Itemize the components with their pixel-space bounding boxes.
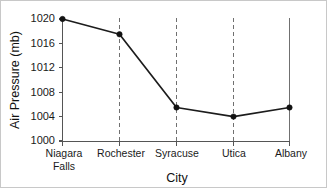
y-tick-label-1020: 1020 xyxy=(31,12,55,24)
line-chart: 1020 1016 1012 1008 1004 1000 xyxy=(1,1,326,187)
y-tick-label-1004: 1004 xyxy=(31,110,55,122)
data-point-albany xyxy=(287,105,292,110)
data-point-utica xyxy=(231,114,236,119)
chart-screenshot: 1020 1016 1012 1008 1004 1000 xyxy=(0,0,327,188)
x-tick-label-syracuse: Syracuse xyxy=(155,147,199,159)
chart-svg: 1020 1016 1012 1008 1004 1000 xyxy=(1,1,326,187)
data-point-rochester xyxy=(117,32,122,37)
category-grid-lines xyxy=(120,18,290,141)
y-tick-label-1012: 1012 xyxy=(31,61,55,73)
data-point-niagara-falls xyxy=(60,16,65,21)
y-axis-title: Air Pressure (mb) xyxy=(8,31,22,129)
y-tick-label-1000: 1000 xyxy=(31,134,55,146)
x-tick-label-niagara-falls-line1: Niagara xyxy=(46,147,83,159)
y-tick-marks xyxy=(59,19,63,141)
y-tick-label-1008: 1008 xyxy=(31,86,55,98)
data-point-syracuse xyxy=(174,105,179,110)
x-tick-label-utica: Utica xyxy=(222,147,246,159)
x-tick-label-niagara-falls-line2: Falls xyxy=(53,160,75,172)
x-tick-label-rochester: Rochester xyxy=(97,147,145,159)
x-tick-label-albany: Albany xyxy=(275,147,308,159)
x-axis-title: City xyxy=(166,171,188,185)
y-tick-label-1016: 1016 xyxy=(31,37,55,49)
x-tick-marks xyxy=(63,142,290,146)
